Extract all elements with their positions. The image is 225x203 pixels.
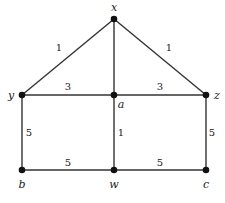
node-label-y: y [7, 89, 15, 102]
node-label-x: x [111, 1, 118, 14]
node-b [19, 167, 26, 174]
edge-weight-b-w: 5 [65, 157, 71, 168]
node-w [111, 167, 118, 174]
edge-weight-a-w: 1 [118, 127, 124, 138]
node-label-b: b [18, 178, 25, 191]
node-label-z: z [213, 89, 220, 102]
node-x [111, 16, 118, 23]
edge-weight-y-a: 3 [65, 81, 71, 92]
node-label-a: a [118, 98, 125, 111]
weighted-graph-diagram: 113351555 xyazbwc [0, 0, 225, 203]
node-c [203, 167, 210, 174]
node-a [111, 92, 118, 99]
edge-weight-z-c: 5 [209, 127, 215, 138]
node-y [19, 92, 26, 99]
edge-weight-x-z: 1 [166, 42, 172, 53]
edge-weight-w-c: 5 [157, 157, 163, 168]
edge-weight-a-z: 3 [157, 81, 163, 92]
node-z [203, 92, 210, 99]
node-label-w: w [109, 178, 119, 191]
node-label-c: c [203, 178, 209, 191]
edge-weight-x-y: 1 [56, 42, 62, 53]
edge-weight-y-b: 5 [26, 127, 32, 138]
